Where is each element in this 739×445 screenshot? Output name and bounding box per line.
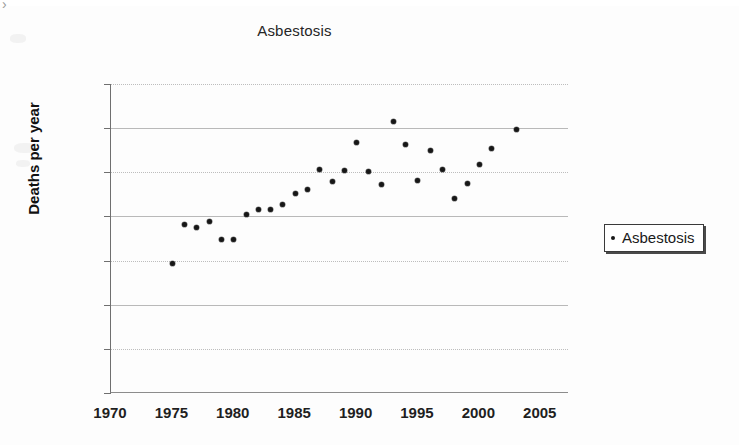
gridline <box>111 128 568 129</box>
gridline <box>111 261 568 262</box>
y-tick-mark <box>104 84 111 85</box>
data-point <box>428 148 433 153</box>
y-tick-mark <box>104 393 111 394</box>
data-point <box>194 225 199 230</box>
data-point <box>342 168 347 173</box>
y-tick-mark <box>104 349 111 350</box>
chart-figure: › Asbestosis Deaths per year 05010015020… <box>0 0 739 445</box>
data-point <box>403 142 408 147</box>
data-point <box>293 191 298 196</box>
x-tick-label: 1995 <box>387 404 447 421</box>
y-tick-mark <box>104 216 111 217</box>
plot-area <box>110 84 568 393</box>
y-tick-mark <box>104 305 111 306</box>
x-tick-label: 1975 <box>141 404 201 421</box>
y-tick-mark <box>104 261 111 262</box>
data-point <box>489 146 494 151</box>
gridline <box>111 349 568 350</box>
legend-label: Asbestosis <box>622 229 695 246</box>
x-tick-label: 1985 <box>264 404 324 421</box>
data-point <box>379 182 384 187</box>
data-point <box>170 261 175 266</box>
data-point <box>231 237 236 242</box>
x-tick-label: 2005 <box>510 404 570 421</box>
data-point <box>391 119 396 124</box>
data-point <box>415 178 420 183</box>
plot-wrapper: Deaths per year 050100150200250300350 19… <box>0 0 600 445</box>
y-axis-title: Deaths per year <box>25 74 42 244</box>
data-point <box>305 187 310 192</box>
x-tick-label: 1970 <box>80 404 140 421</box>
x-tick-label: 1980 <box>203 404 263 421</box>
data-point <box>256 207 261 212</box>
data-point <box>268 207 273 212</box>
data-point <box>452 196 457 201</box>
data-point <box>244 212 249 217</box>
x-tick-label: 2000 <box>448 404 508 421</box>
x-tick-label: 1990 <box>326 404 386 421</box>
data-point <box>330 179 335 184</box>
chart-legend[interactable]: Asbestosis <box>604 224 704 252</box>
data-point <box>207 219 212 224</box>
data-point <box>477 162 482 167</box>
y-tick-mark <box>104 128 111 129</box>
data-point <box>354 140 359 145</box>
data-point <box>219 237 224 242</box>
gridline <box>111 305 568 306</box>
data-point <box>514 127 519 132</box>
gridline <box>111 216 568 217</box>
data-point <box>182 222 187 227</box>
y-tick-mark <box>104 172 111 173</box>
data-point <box>280 202 285 207</box>
gridline <box>111 172 568 173</box>
gridline <box>111 84 568 85</box>
legend-marker-icon <box>611 236 615 240</box>
data-point <box>465 181 470 186</box>
